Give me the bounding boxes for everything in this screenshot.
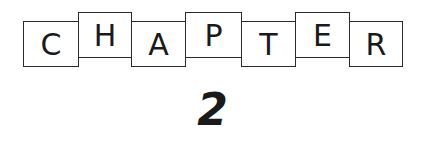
letter: P: [204, 18, 222, 53]
letter-box-h: H: [78, 12, 132, 58]
letter: E: [313, 18, 332, 53]
letter: R: [366, 27, 387, 62]
letter-box-t: T: [241, 21, 296, 67]
letter-box-p: P: [185, 12, 242, 58]
letter-box-a: A: [131, 21, 186, 67]
letter: C: [41, 27, 62, 62]
chapter-number: 2: [0, 86, 425, 134]
letter-box-c: C: [23, 21, 79, 67]
letter-box-e: E: [295, 12, 350, 58]
letter: A: [148, 27, 169, 62]
letter-box-r: R: [349, 21, 403, 67]
letter: T: [259, 27, 277, 62]
letter: H: [94, 18, 117, 53]
